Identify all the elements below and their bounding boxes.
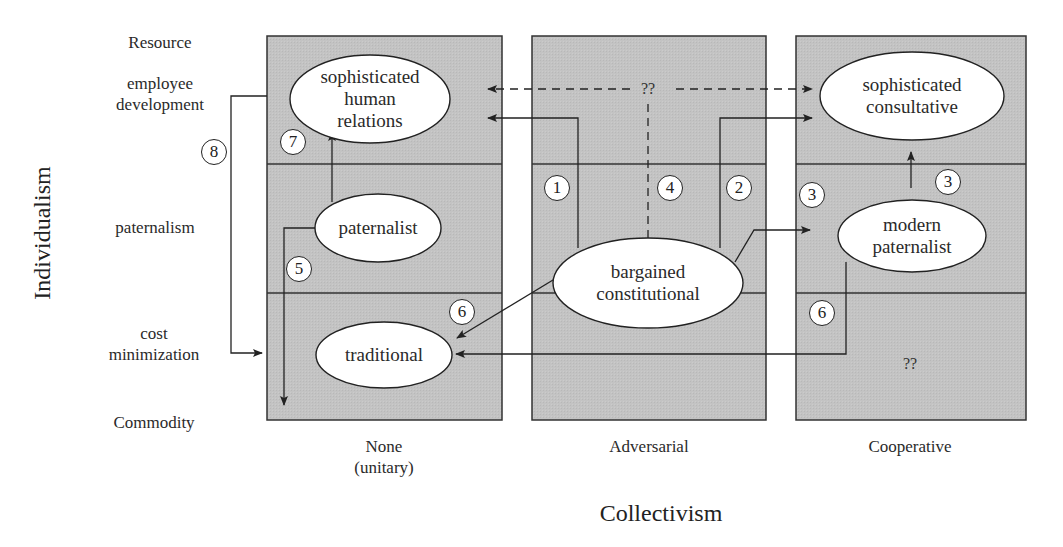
path-badge-6a: 6: [449, 299, 475, 325]
path-badge-2: 2: [726, 175, 752, 201]
path-badge-6b: 6: [809, 300, 835, 326]
path-badge-7: 7: [280, 129, 306, 155]
path-badge-3b: 3: [935, 169, 961, 195]
path-badge-1: 1: [544, 175, 570, 201]
y-level-resource: Resource: [110, 32, 210, 53]
x-level-none-unitary: None (unitary): [334, 436, 434, 478]
x-level-adversarial: Adversarial: [597, 436, 701, 457]
y-level-commodity: Commodity: [98, 412, 210, 433]
node-label-bargained-constitutional: bargained constitutional: [596, 261, 699, 305]
arrow-8: [231, 96, 267, 353]
y-axis-title: Individualism: [29, 166, 56, 299]
path-badge-4: 4: [657, 175, 683, 201]
x-level-cooperative: Cooperative: [858, 436, 962, 457]
node-label-sophisticated-consultative: sophisticated consultative: [862, 74, 961, 118]
node-label-modern-paternalist: modern paternalist: [872, 214, 951, 258]
path-badge-8: 8: [201, 139, 227, 165]
x-axis-title: Collectivism: [600, 500, 723, 527]
y-level-cost-minimization: cost minimization: [94, 323, 214, 365]
path-badge-5: 5: [286, 256, 312, 282]
path-badge-3a: 3: [799, 182, 825, 208]
unknown-top-center: ??: [641, 80, 655, 98]
node-label-paternalist: paternalist: [338, 217, 417, 239]
node-label-traditional: traditional: [345, 344, 423, 366]
unknown-bottom-right: ??: [903, 355, 917, 373]
y-level-employee-development: employee development: [94, 73, 226, 115]
diagram-stage: Individualism Collectivism Resource empl…: [0, 0, 1063, 547]
y-level-paternalism: paternalism: [96, 217, 214, 238]
node-label-sophisticated-human-relations: sophisticated human relations: [320, 66, 419, 132]
